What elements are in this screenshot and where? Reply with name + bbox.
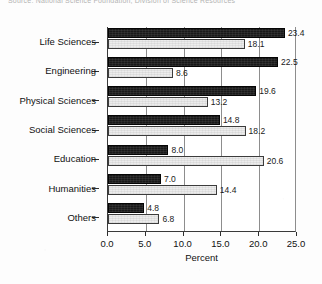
x-axis-tick <box>107 232 108 236</box>
category-label-physical-sciences: Physical Sciences <box>19 95 96 106</box>
category-label-life-sciences: Life Sciences <box>39 36 96 47</box>
bar-group: 7.014.4 <box>108 173 295 202</box>
chart-figure: Source: National Science Foundation, Div… <box>0 0 322 284</box>
bar-value-label: 13.2 <box>211 97 228 107</box>
clipped-source-note-text: Source: National Science Foundation, Div… <box>8 0 308 4</box>
bar-value-label: 14.8 <box>223 115 240 125</box>
x-axis-tick <box>258 232 259 236</box>
bar-series-light <box>108 39 245 49</box>
bar-series-light <box>108 185 217 195</box>
bar-value-label: 19.6 <box>259 86 276 96</box>
bar-group: 22.58.6 <box>108 56 295 85</box>
x-axis-tick <box>145 232 146 236</box>
bar-series-dark <box>108 57 278 67</box>
bar-value-label: 20.6 <box>267 156 284 166</box>
x-axis-tick-label: 20.0 <box>249 238 268 249</box>
bar-series-light <box>108 156 264 166</box>
bar-value-label: 6.8 <box>162 214 174 224</box>
x-axis-title: Percent <box>107 252 296 263</box>
clipped-source-note: Source: National Science Foundation, Div… <box>8 0 308 5</box>
bar-series-light <box>108 97 208 107</box>
bar-group: 19.613.2 <box>108 86 295 115</box>
bar-value-label: 22.5 <box>281 57 298 67</box>
bar-value-label: 23.4 <box>288 28 305 38</box>
bar-group: 4.86.8 <box>108 203 295 232</box>
plot-area: 23.418.122.58.619.613.214.818.28.020.67.… <box>107 27 296 232</box>
x-axis-tick-label: 5.0 <box>138 238 151 249</box>
bar-value-label: 8.6 <box>176 68 188 78</box>
x-axis-tick-label: 15.0 <box>211 238 230 249</box>
bar-series-light <box>108 68 173 78</box>
x-axis-tick <box>220 232 221 236</box>
bar-group: 14.818.2 <box>108 115 295 144</box>
category-label-engineering: Engineering <box>45 65 96 76</box>
bar-series-light <box>108 126 246 136</box>
bar-series-dark <box>108 115 220 125</box>
category-label-others: Others <box>67 212 96 223</box>
x-axis-tick <box>296 232 297 236</box>
category-label-education: Education <box>54 153 96 164</box>
bar-value-label: 7.0 <box>164 174 176 184</box>
bar-series-dark <box>108 28 285 38</box>
x-axis-tick-label: 10.0 <box>173 238 192 249</box>
bar-value-label: 14.4 <box>220 185 237 195</box>
category-label-social-sciences: Social Sciences <box>29 124 96 135</box>
bar-value-label: 4.8 <box>147 203 159 213</box>
bar-value-label: 8.0 <box>171 145 183 155</box>
bar-group: 23.418.1 <box>108 27 295 56</box>
x-axis-tick-label: 25.0 <box>287 238 306 249</box>
bar-series-dark <box>108 174 161 184</box>
bar-value-label: 18.1 <box>248 39 265 49</box>
bar-series-light <box>108 214 159 224</box>
bar-group: 8.020.6 <box>108 144 295 173</box>
bar-series-dark <box>108 86 256 96</box>
bar-value-label: 18.2 <box>249 126 266 136</box>
bar-series-dark <box>108 145 168 155</box>
bar-series-dark <box>108 203 144 213</box>
x-axis-tick-label: 0.0 <box>100 238 113 249</box>
category-label-humanities: Humanities <box>48 183 96 194</box>
x-axis-tick <box>183 232 184 236</box>
